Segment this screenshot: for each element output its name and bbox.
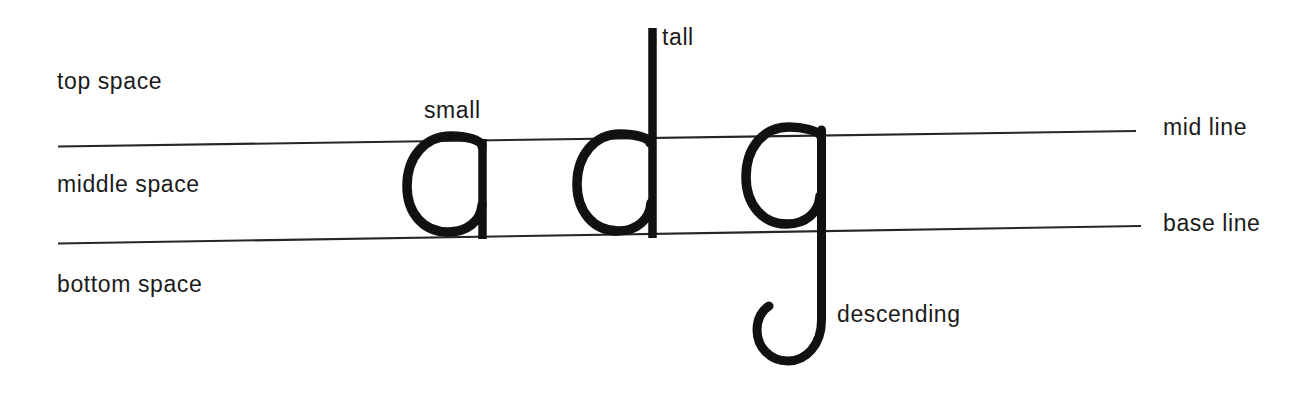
label-mid-line: mid line <box>1163 116 1247 139</box>
label-small: small <box>424 99 481 122</box>
label-bottom-space: bottom space <box>57 273 202 296</box>
letter-d <box>577 28 653 238</box>
letter-a <box>407 136 483 239</box>
label-tall: tall <box>662 26 694 49</box>
label-middle-space: middle space <box>57 173 200 196</box>
letter-g <box>746 127 822 361</box>
label-descending: descending <box>837 303 961 326</box>
label-top-space: top space <box>57 70 162 93</box>
diagram-canvas: top space middle space bottom space mid … <box>0 0 1313 393</box>
label-base-line: base line <box>1163 212 1260 235</box>
